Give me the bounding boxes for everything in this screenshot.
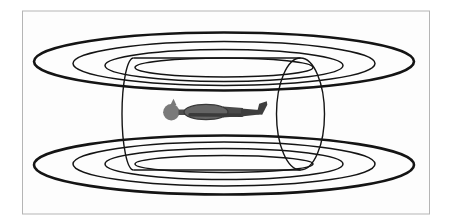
field-coil-diagram (0, 0, 452, 224)
diagram-canvas (0, 0, 452, 224)
patient-head (163, 104, 179, 120)
patient-torso (184, 104, 228, 119)
